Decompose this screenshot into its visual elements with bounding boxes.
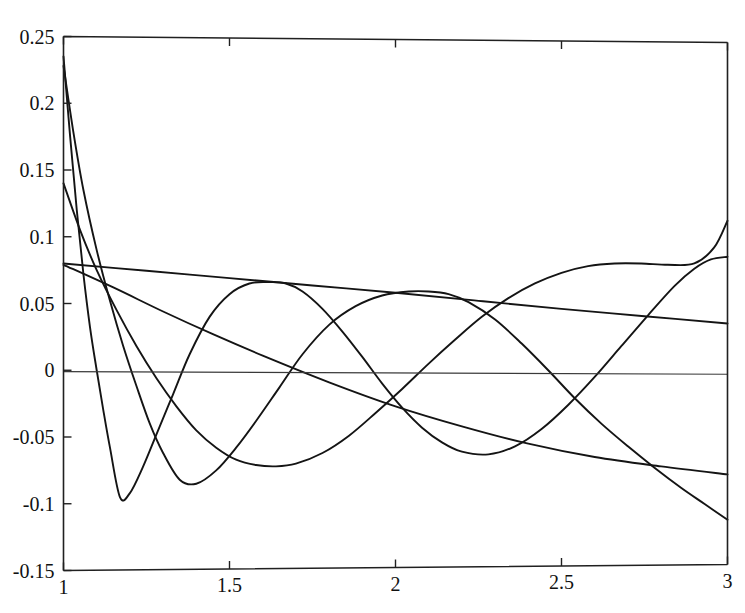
y-tick-label: -0.15 <box>13 559 55 582</box>
y-tick-label: 0.1 <box>30 225 55 248</box>
series-line-curve-3 <box>64 183 728 466</box>
axis-frame <box>64 37 728 571</box>
y-tick-label: 0.25 <box>20 25 55 48</box>
x-tick-label: 1 <box>59 576 69 599</box>
axis-frame-path <box>64 37 728 571</box>
series-line-zero-line <box>64 372 728 375</box>
curves-group <box>64 57 728 520</box>
series-line-curve-1 <box>64 57 728 501</box>
y-tick-label: 0.05 <box>20 292 55 315</box>
y-tick-label: -0.05 <box>13 426 55 449</box>
y-tick-label: 0 <box>45 359 55 382</box>
series-line-curve-5 <box>64 265 728 475</box>
y-tick-label: 0.2 <box>30 92 55 115</box>
axis-ticks <box>64 37 728 571</box>
figure-container: 0.250.20.150.10.050-0.05-0.1-0.15 11.522… <box>0 0 745 613</box>
x-tick-label: 2.5 <box>549 571 574 594</box>
x-tick-label: 1.5 <box>217 574 242 597</box>
chart-canvas <box>0 0 745 613</box>
x-tick-label: 2 <box>391 573 401 596</box>
y-tick-label: 0.15 <box>20 159 55 182</box>
series-line-curve-4 <box>64 263 728 323</box>
x-tick-label: 3 <box>723 570 733 593</box>
y-tick-label: -0.1 <box>23 492 55 515</box>
